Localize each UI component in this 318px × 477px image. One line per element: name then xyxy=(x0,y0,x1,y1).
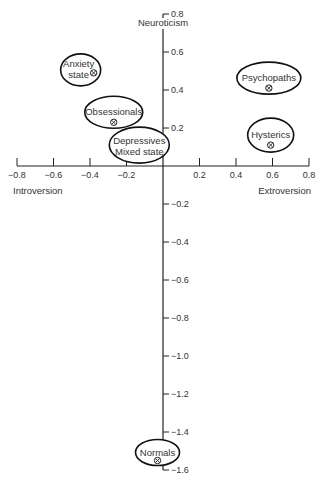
y-tick-label: −0.4 xyxy=(171,237,189,247)
x-tick-label: 0.2 xyxy=(193,170,206,180)
x-ticks: −0.8−0.6−0.4−0.20.20.40.60.8 xyxy=(8,158,315,180)
x-tick-label: −0.8 xyxy=(8,170,26,180)
group-label: Normals xyxy=(140,447,176,458)
group-depressives-mixed-state: DepressivesMixed state xyxy=(109,127,169,163)
data-point-marker xyxy=(267,142,273,148)
x-tick-label: −0.4 xyxy=(81,170,99,180)
x-tick-label: 0.6 xyxy=(266,170,279,180)
data-point-marker xyxy=(111,119,117,125)
group-label: state xyxy=(68,69,89,80)
y-tick-label: −1.0 xyxy=(171,351,189,361)
group-label: Hysterics xyxy=(251,129,290,140)
x-axis-label-right: Extroversion xyxy=(258,185,311,196)
y-tick-label: 0.4 xyxy=(171,85,184,95)
group-obsessionals: Obsessionals xyxy=(85,96,143,128)
x-tick-label: 0.8 xyxy=(303,170,316,180)
x-tick-label: 0.4 xyxy=(230,170,243,180)
group-label: Mixed state xyxy=(115,146,164,157)
groups: AnxietystateObsessionalsDepressivesMixed… xyxy=(61,54,301,466)
y-tick-label: −1.2 xyxy=(171,389,189,399)
y-tick-label: −0.6 xyxy=(171,275,189,285)
group-anxiety-state: Anxietystate xyxy=(61,54,101,86)
y-ticks: 0.80.60.40.2−0.2−0.4−0.6−0.8−1.0−1.2−1.4… xyxy=(163,9,189,475)
y-tick-label: −0.8 xyxy=(171,313,189,323)
group-normals: Normals xyxy=(136,440,180,466)
y-tick-label: −0.2 xyxy=(171,199,189,209)
x-tick-label: −0.2 xyxy=(118,170,136,180)
group-label: Depressives xyxy=(113,135,166,146)
group-label: Anxiety xyxy=(63,58,94,69)
y-axis-label: Neuroticism xyxy=(138,17,188,28)
x-axis-label-left: Introversion xyxy=(13,185,63,196)
group-label: Obsessionals xyxy=(85,106,142,117)
data-point-marker xyxy=(154,457,160,463)
data-point-marker xyxy=(90,70,96,76)
data-point-marker xyxy=(266,85,272,91)
x-tick-label: −0.6 xyxy=(45,170,63,180)
y-tick-label: 0.2 xyxy=(171,123,184,133)
y-tick-label: −1.6 xyxy=(171,465,189,475)
y-tick-label: −1.4 xyxy=(171,427,189,437)
y-tick-label: 0.6 xyxy=(171,47,184,57)
eysenck-personality-chart: −0.8−0.6−0.4−0.20.20.40.60.8 0.80.60.40.… xyxy=(0,0,318,477)
group-hysterics: Hysterics xyxy=(248,118,294,152)
group-label: Psychopaths xyxy=(242,72,297,83)
group-psychopaths: Psychopaths xyxy=(237,62,301,94)
